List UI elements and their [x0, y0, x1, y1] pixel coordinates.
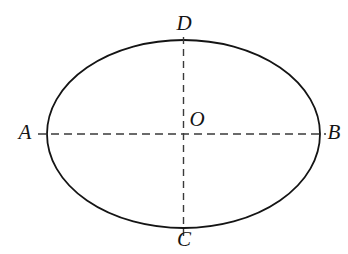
vertex-label-d: D [175, 11, 191, 35]
diagram-canvas: A B C D O [0, 0, 348, 254]
vertex-label-a: A [17, 120, 32, 144]
vertex-label-b: B [328, 120, 341, 144]
vertex-label-c: C [177, 227, 192, 251]
ellipse-diagram-figure: A B C D O [0, 0, 348, 254]
centre-label-o: O [189, 107, 204, 131]
